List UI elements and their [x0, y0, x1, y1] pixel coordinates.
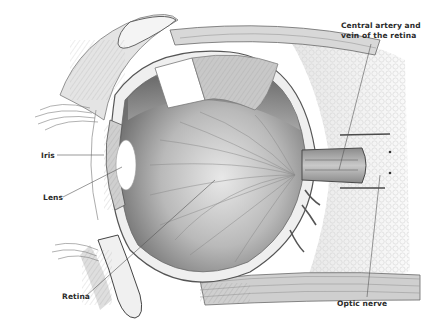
lens-shape [116, 140, 136, 190]
label-central-artery-and-vein: Central artery and vein of the retina [341, 21, 421, 41]
label-retina: Retina [62, 292, 90, 302]
eye-globe [91, 51, 315, 282]
label-iris: Iris [41, 151, 55, 161]
eye-anatomy-illustration [0, 0, 428, 331]
label-optic-nerve: Optic nerve [337, 299, 387, 309]
label-lens: Lens [43, 193, 63, 203]
